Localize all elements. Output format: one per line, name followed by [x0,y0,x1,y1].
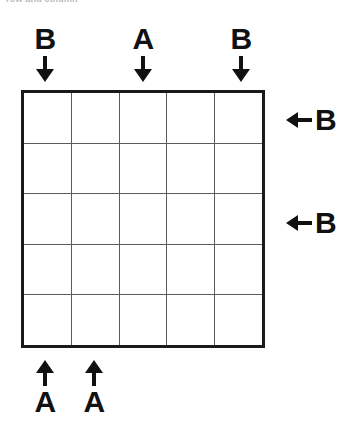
grid-cell[interactable] [72,93,120,143]
grid-cell[interactable] [72,144,120,194]
caption-strip: row and column [6,0,206,4]
arrow-left-icon [286,213,312,233]
grid-cell[interactable] [167,194,215,244]
bottom-column-marker-2: A [70,360,118,417]
grid-cell[interactable] [215,245,262,295]
grid-cell[interactable] [215,144,262,194]
arrow-left-icon [286,110,312,130]
arrow-up-icon [83,360,105,386]
grid-cell[interactable] [215,194,262,244]
caption-text: row and column [6,0,206,4]
grid-cell[interactable] [24,245,72,295]
grid-row [24,93,262,144]
arrow-up-icon [34,360,56,386]
bottom-column-marker-label: A [34,387,55,417]
row-marker-label: B [315,105,336,135]
grid-cell[interactable] [24,295,72,345]
column-marker-3: A [119,24,167,82]
row-marker-1: B [286,100,336,140]
grid-cell[interactable] [215,93,262,143]
bottom-column-marker-1: A [21,360,69,417]
grid-cell[interactable] [167,93,215,143]
grid-row [24,144,262,195]
grid-cell[interactable] [120,194,168,244]
grid-cell[interactable] [24,194,72,244]
arrow-down-icon [132,56,154,82]
grid [21,90,265,348]
grid-container [21,90,265,348]
column-marker-5: B [217,24,265,82]
row-marker-label: B [315,208,336,238]
grid-cell[interactable] [167,295,215,345]
arrow-down-icon [230,56,252,82]
grid-cell[interactable] [120,245,168,295]
grid-cell[interactable] [167,245,215,295]
grid-cell[interactable] [167,144,215,194]
grid-cell[interactable] [72,295,120,345]
column-marker-label: B [230,24,251,54]
grid-row [24,245,262,296]
arrow-down-icon [34,56,56,82]
grid-cell[interactable] [120,144,168,194]
grid-cell[interactable] [24,93,72,143]
column-marker-1: B [21,24,69,82]
column-marker-label: A [132,24,153,54]
grid-cell[interactable] [72,245,120,295]
row-marker-3: B [286,203,336,243]
grid-cell[interactable] [120,93,168,143]
grid-cell[interactable] [215,295,262,345]
grid-cell[interactable] [24,144,72,194]
bottom-column-marker-label: A [83,387,104,417]
grid-cell[interactable] [120,295,168,345]
grid-row [24,295,262,345]
column-marker-label: B [34,24,55,54]
grid-cell[interactable] [72,194,120,244]
grid-row [24,194,262,245]
